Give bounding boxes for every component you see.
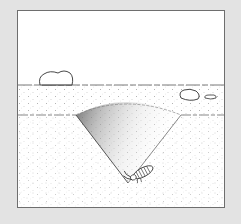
- rock-small-right: [205, 95, 216, 99]
- antlion-pit-illustration: [18, 11, 225, 208]
- illustration-panel: [17, 10, 225, 208]
- figure-canvas: antlion pit cross-section: [0, 0, 241, 224]
- rock-medium-right: [180, 89, 199, 100]
